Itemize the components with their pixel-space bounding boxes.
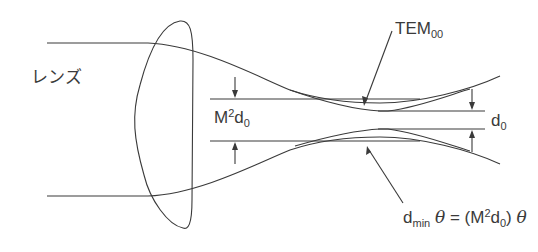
tem00-label: TEM00 (395, 20, 443, 37)
d0-arrowhead-top (469, 102, 475, 110)
formula-sub0: 0 (500, 217, 506, 229)
formula-sup: 2 (484, 207, 490, 219)
formula-min: min (412, 217, 430, 229)
d0-arrowhead-bottom (469, 130, 475, 138)
formula-d2: d (491, 208, 500, 227)
lens-outline (135, 21, 193, 228)
beam-diagram: レンズ TEM00 M2d0 d0 dmin θ = (M2d0) θ (0, 0, 538, 252)
m2d0-label-base: M (214, 108, 228, 127)
tem00-beam-top (290, 89, 470, 111)
m2d0-label-sup: 2 (228, 107, 234, 119)
tem00-label-base: TEM (395, 19, 431, 38)
m2d0-label: M2d0 (214, 109, 250, 126)
lens-label: レンズ (31, 69, 82, 86)
real-beam-top (47, 43, 500, 103)
formula-theta-1: θ (435, 207, 445, 227)
formula-leader (369, 150, 403, 203)
tem00-leader (365, 31, 392, 103)
formula-leader-arrowhead (366, 146, 371, 155)
real-beam-bottom (47, 137, 500, 196)
m2d0-label-sub: 0 (244, 117, 250, 129)
formula-theta-2: θ (517, 207, 527, 227)
formula-close: ) (506, 208, 516, 227)
tem00-label-sub: 00 (431, 28, 443, 40)
d0-label: d0 (491, 112, 507, 129)
d0-label-sub: 0 (500, 120, 506, 132)
formula-eq: = (M (445, 208, 484, 227)
m2d0-arrowhead-top (232, 90, 238, 98)
tem00-beam-bottom (295, 129, 470, 151)
m2d0-label-d: d (234, 108, 243, 127)
m2d0-arrowhead-bottom (232, 142, 238, 150)
divergence-formula: dmin θ = (M2d0) θ (403, 209, 527, 226)
